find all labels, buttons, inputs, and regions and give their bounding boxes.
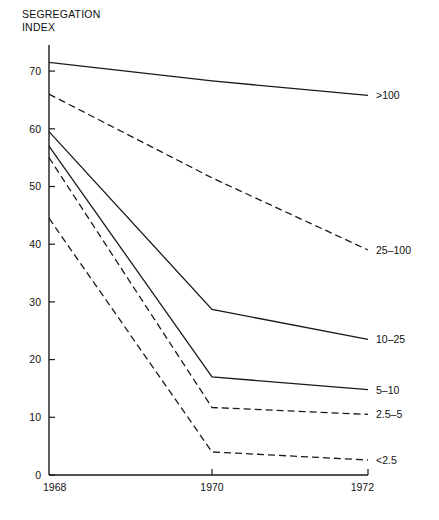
y-axis-tick-label: 40 xyxy=(29,238,41,250)
series-label-25-100: 25–100 xyxy=(376,244,411,256)
y-axis-ticks xyxy=(49,71,55,475)
x-axis-tick-labels: 196819701972 xyxy=(43,481,374,493)
y-axis-tick-label: 70 xyxy=(29,65,41,77)
y-axis-tick-label: 30 xyxy=(29,296,41,308)
series-line-10-25 xyxy=(49,132,368,340)
y-axis-tick-label: 50 xyxy=(29,180,41,192)
y-axis-tick-labels: 010203040506070 xyxy=(29,65,41,481)
series-label-5-10: 5–10 xyxy=(376,384,400,396)
series-label-2.5-5: 2.5–5 xyxy=(376,408,402,420)
y-axis-tick-label: 10 xyxy=(29,411,41,423)
series-label-<2.5: <2.5 xyxy=(376,454,397,466)
series-lines-group xyxy=(49,62,368,460)
chart-canvas: 010203040506070 196819701972 >10025–1001… xyxy=(0,0,439,520)
series-line-25-100 xyxy=(49,94,368,250)
series-label->100: >100 xyxy=(376,89,400,101)
segregation-index-chart: SEGREGATIONINDEX 010203040506070 1968197… xyxy=(0,0,439,520)
x-axis-tick-label: 1970 xyxy=(200,481,224,493)
series-label-10-25: 10–25 xyxy=(376,333,405,345)
series-line-5-10 xyxy=(49,146,368,389)
series-labels-group: >10025–10010–255–102.5–5<2.5 xyxy=(376,89,411,466)
series-line-<2.5 xyxy=(49,218,368,460)
series-line->100 xyxy=(49,62,368,95)
x-axis-tick-label: 1972 xyxy=(351,481,375,493)
x-axis-ticks xyxy=(212,469,368,475)
y-axis-tick-label: 20 xyxy=(29,353,41,365)
y-axis-tick-label: 0 xyxy=(35,469,41,481)
x-axis-tick-label: 1968 xyxy=(43,481,67,493)
y-axis-tick-label: 60 xyxy=(29,123,41,135)
